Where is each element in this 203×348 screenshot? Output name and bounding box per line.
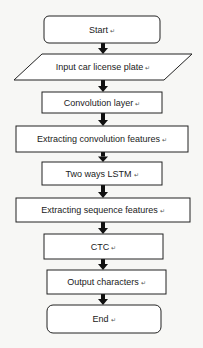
- arrow-start-to-input: [98, 43, 108, 54]
- node-ctc: CTC↵: [44, 234, 163, 259]
- arrow-shaft: [101, 294, 105, 299]
- arrow-shaft: [101, 222, 105, 228]
- node-extract-conv: Extracting convolution features↵: [16, 126, 188, 152]
- arrow-conv-to-extract-conv: [98, 113, 108, 126]
- node-input: Input car license plate↵: [14, 54, 192, 80]
- arrow-lstm-to-extract-seq: [98, 185, 108, 198]
- arrow-ctc-to-output: [98, 259, 108, 270]
- arrow-down-icon: [98, 299, 108, 305]
- arrow-down-icon: [98, 157, 108, 163]
- return-mark-icon: ↵: [162, 137, 167, 143]
- return-mark-icon: ↵: [145, 65, 150, 71]
- return-mark-icon: ↵: [160, 208, 165, 214]
- node-label: Output characters↵: [67, 277, 146, 287]
- arrow-input-to-conv: [98, 80, 108, 92]
- arrow-shaft: [101, 152, 105, 157]
- return-mark-icon: ↵: [111, 317, 116, 323]
- arrow-down-icon: [98, 192, 108, 198]
- node-output: Output characters↵: [47, 270, 166, 294]
- arrow-down-icon: [98, 48, 108, 54]
- node-end: End↵: [47, 305, 161, 333]
- arrow-down-icon: [98, 228, 108, 234]
- return-mark-icon: ↵: [111, 245, 116, 251]
- arrow-down-icon: [98, 120, 108, 126]
- return-mark-icon: ↵: [134, 172, 139, 178]
- arrow-shaft: [101, 185, 105, 192]
- arrow-shaft: [101, 80, 105, 86]
- node-conv: Convolution layer↵: [42, 92, 162, 113]
- return-mark-icon: ↵: [141, 280, 146, 286]
- node-start: Start↵: [44, 16, 160, 43]
- arrow-output-to-end: [98, 294, 108, 305]
- node-lstm: Two ways LSTM↵: [42, 162, 162, 185]
- flowchart: Start↵Input car license plate↵Convolutio…: [0, 0, 203, 348]
- arrow-down-icon: [98, 264, 108, 270]
- node-extract-seq: Extracting sequence features↵: [16, 198, 190, 222]
- arrow-shaft: [101, 259, 105, 264]
- node-label: Convolution layer↵: [64, 98, 141, 108]
- node-label: Two ways LSTM↵: [65, 169, 138, 179]
- arrow-extract-seq-to-ctc: [98, 222, 108, 234]
- return-mark-icon: ↵: [110, 28, 115, 34]
- arrow-shaft: [101, 43, 105, 48]
- return-mark-icon: ↵: [135, 101, 140, 107]
- node-label: Extracting sequence features↵: [41, 205, 165, 215]
- arrow-down-icon: [98, 86, 108, 92]
- node-label: Extracting convolution features↵: [37, 134, 167, 144]
- node-label: Input car license plate↵: [56, 62, 151, 72]
- arrow-extract-conv-to-lstm: [98, 152, 108, 162]
- arrow-shaft: [101, 113, 105, 120]
